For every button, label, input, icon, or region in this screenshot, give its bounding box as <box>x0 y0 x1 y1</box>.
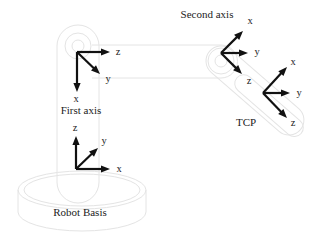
robot-basis-frame-z-arrowhead <box>72 136 79 145</box>
first-axis-frame-x-arrowhead <box>73 83 80 92</box>
diagram-canvas: zyxzyxxyzxyz Second axis First axis TCP … <box>0 0 318 235</box>
second-axis-frame-x-axis-line <box>221 36 238 53</box>
tcp-frame-y-label: y <box>296 87 302 98</box>
tcp-frame-z-label: z <box>291 117 296 128</box>
robot-basis-frame-y-axis-line <box>76 153 93 169</box>
first-axis-frame-z-label: z <box>116 46 121 57</box>
tcp-frame-x-axis-line <box>263 72 282 93</box>
robot-basis-frame-z-label: z <box>73 122 78 133</box>
tcp-label: TCP <box>236 116 256 128</box>
robot-basis-frame-y-label: y <box>101 135 107 146</box>
second-axis-label: Second axis <box>181 8 234 20</box>
first-axis-frame-x-label: x <box>73 93 79 104</box>
tcp-frame-x-label: x <box>290 56 296 67</box>
robot-basis-frame-x-label: x <box>116 163 122 174</box>
robot-basis-frame-x-arrowhead <box>101 165 110 172</box>
robot-basis-frame: zyx <box>72 122 122 174</box>
robot-basis-label: Robot Basis <box>53 206 106 218</box>
base-cylinder-top-rim <box>18 171 146 209</box>
frames-layer: zyxzyxxyzxyz <box>72 15 302 174</box>
second-axis-frame-y-arrowhead <box>239 49 248 56</box>
second-axis-frame-x-label: x <box>247 15 253 26</box>
first-axis-frame-y-label: y <box>105 73 111 84</box>
first-axis-label: First axis <box>61 104 102 116</box>
robot-diagram: zyxzyxxyzxyz Second axis First axis TCP … <box>0 0 318 235</box>
tcp-frame-y-arrowhead <box>281 89 290 96</box>
second-axis-frame-z-label: z <box>247 75 252 86</box>
first-axis-frame-z-arrowhead <box>101 48 110 55</box>
second-axis-frame-y-label: y <box>254 46 260 57</box>
first-axis-frame: zyx <box>73 46 120 104</box>
base-cylinder-inner-rim <box>24 174 140 206</box>
first-axis-frame-y-axis-line <box>77 52 95 69</box>
first-joint-circle-inner <box>72 40 84 52</box>
robot-structure <box>18 25 310 231</box>
